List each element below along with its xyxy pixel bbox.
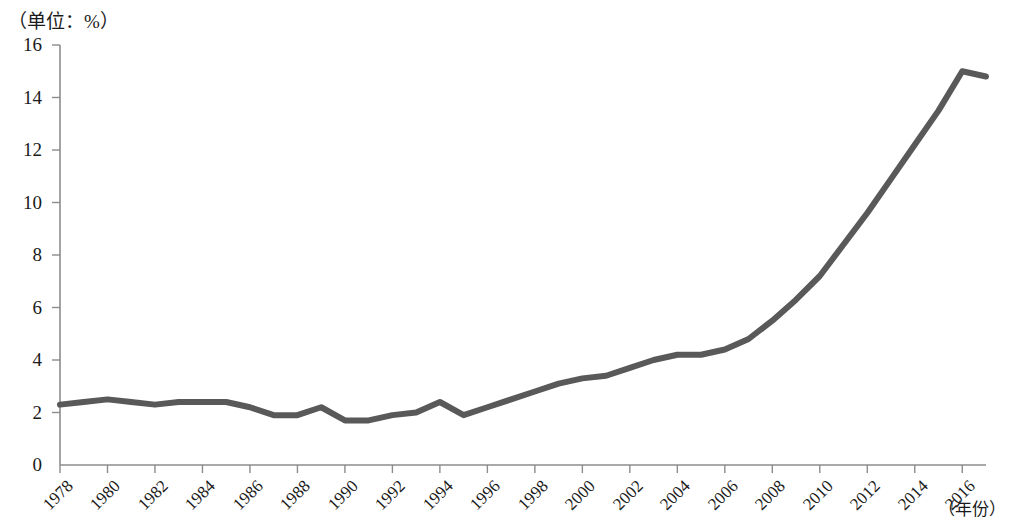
data-series-group (60, 71, 986, 420)
chart-plot-area (0, 0, 1026, 524)
y-tick-label: 14 (8, 88, 42, 107)
y-tick-label: 8 (8, 245, 42, 264)
y-tick-label: 10 (8, 193, 42, 212)
y-tick-label: 12 (8, 140, 42, 159)
y-tick-label: 6 (8, 298, 42, 317)
y-tick-label: 2 (8, 403, 42, 422)
y-tick-label: 16 (8, 35, 42, 54)
y-tick-label: 0 (8, 455, 42, 474)
y-tick-marks (52, 45, 60, 413)
data-line-series (60, 71, 986, 420)
x-axis-title: （年份） (938, 495, 1006, 520)
chart-container: （单位：%） 0246810121416 1978198019821984198… (0, 0, 1026, 524)
x-tick-marks (60, 465, 962, 473)
y-tick-label: 4 (8, 350, 42, 369)
